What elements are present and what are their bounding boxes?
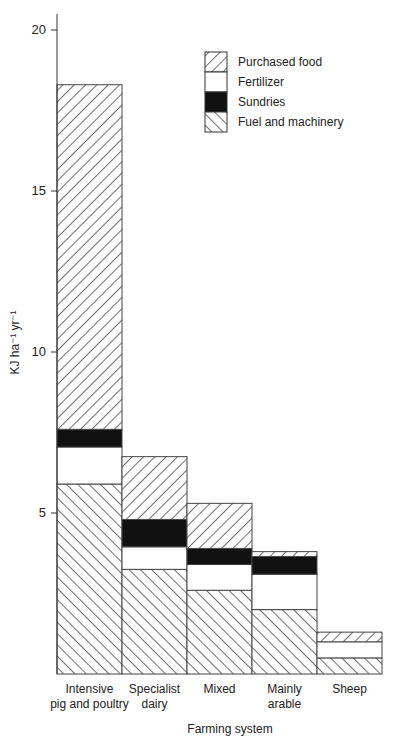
legend-label-purchased-food: Purchased food (238, 55, 322, 69)
legend-swatch-fertilizer (205, 72, 227, 92)
bar-segment (252, 556, 317, 574)
y-tick-label: 10 (16, 344, 46, 359)
bar-segment (57, 484, 122, 674)
y-tick-label: 15 (16, 183, 46, 198)
x-axis-label: Farming system (150, 722, 310, 737)
legend-label-sundries: Sundries (238, 95, 285, 109)
bar-segment (187, 503, 252, 548)
bar-segment (57, 85, 122, 430)
legend-swatch-purchased-food (205, 52, 227, 72)
bar-segment (187, 565, 252, 591)
bar-segment (252, 610, 317, 674)
stacked-bar-chart (0, 0, 399, 751)
bar-segment (252, 552, 317, 557)
bar-segment (122, 519, 187, 546)
bar-segment (187, 548, 252, 564)
bar-segment (317, 658, 382, 674)
legend-swatch-fuel (205, 112, 227, 132)
bar-segment (252, 574, 317, 609)
bar-segment (57, 447, 122, 484)
y-axis-label: KJ ha⁻¹ yr⁻¹ (8, 288, 23, 398)
y-tick-label: 5 (16, 505, 46, 520)
bar-segment (122, 457, 187, 520)
bar-segment (317, 642, 382, 658)
legend-swatch-sundries (205, 92, 227, 112)
legend-label-fertilizer: Fertilizer (238, 75, 284, 89)
bar-segment (122, 547, 187, 570)
y-tick-label: 20 (16, 22, 46, 37)
bar-segment (122, 569, 187, 674)
x-category-label: Sheep (300, 682, 399, 697)
legend-label-fuel: Fuel and machinery (238, 115, 343, 129)
bar-segment (57, 429, 122, 447)
bar-segment (187, 590, 252, 674)
bars-group (57, 85, 382, 674)
legend (205, 52, 227, 132)
bar-segment (317, 632, 382, 642)
